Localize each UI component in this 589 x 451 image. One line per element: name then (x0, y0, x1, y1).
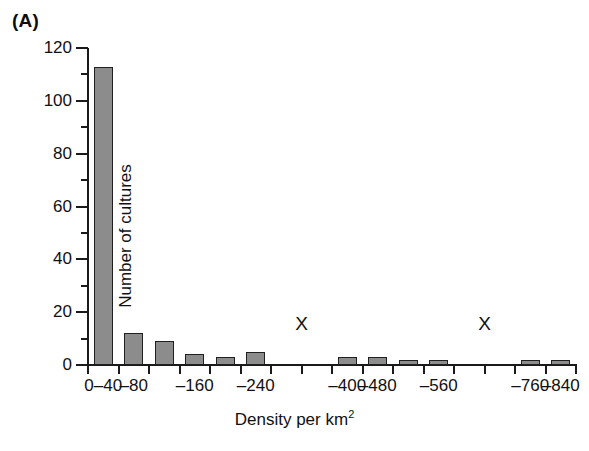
x-axis-tick-label: 0–40 (84, 376, 122, 396)
y-axis-tick-label: 0 (12, 355, 72, 375)
y-axis-tick-label: 40 (12, 249, 72, 269)
bar (124, 333, 143, 365)
bar (246, 352, 265, 365)
bar (185, 354, 204, 365)
y-axis-tick-label: 20 (12, 302, 72, 322)
x-axis-tick (148, 365, 150, 374)
x-axis-tick-label: –480 (359, 376, 397, 396)
x-axis-tick (331, 365, 333, 374)
bar (399, 360, 418, 365)
x-axis-tick-label: –560 (420, 376, 458, 396)
x-axis-tick-label: –160 (176, 376, 214, 396)
bar (429, 360, 448, 365)
x-axis-tick (575, 365, 577, 374)
x-axis-tick (423, 365, 425, 374)
x-axis-tick-label: –240 (237, 376, 275, 396)
x-axis-tick (270, 365, 272, 374)
y-axis-tick-major (76, 206, 88, 208)
bar (216, 357, 235, 365)
figure-panel-a: (A) 020406080100120 Number of cultures X… (0, 0, 589, 451)
bar (551, 360, 570, 365)
y-axis-tick-minor (81, 285, 88, 287)
y-axis-tick-major (76, 311, 88, 313)
y-axis-tick-minor (81, 73, 88, 75)
y-axis-tick-label: 100 (12, 91, 72, 111)
x-axis-title-superscript: 2 (348, 408, 354, 420)
y-axis-tick-label: 80 (12, 144, 72, 164)
y-axis-tick-minor (81, 126, 88, 128)
y-axis-tick-minor (81, 179, 88, 181)
y-axis-tick-major (76, 47, 88, 49)
y-axis-tick-minor (81, 338, 88, 340)
x-axis-tick-label: –80 (120, 376, 148, 396)
bar (155, 341, 174, 365)
x-axis-tick (514, 365, 516, 374)
x-axis-tick (87, 365, 89, 374)
x-axis-title: Density per km2 (0, 408, 589, 430)
bar (521, 360, 540, 365)
y-axis-tick-major (76, 153, 88, 155)
y-axis-tick-major (76, 258, 88, 260)
x-axis-tick (484, 365, 486, 374)
x-axis-tick (118, 365, 120, 374)
y-axis-title: Number of cultures (116, 126, 136, 346)
x-axis-tick (362, 365, 364, 374)
x-axis-tick (301, 365, 303, 374)
x-axis-title-text: Density per km (235, 410, 348, 429)
x-axis-tick-label: –840 (542, 376, 580, 396)
y-axis-tick-minor (81, 232, 88, 234)
plot-area: Number of cultures XX (88, 48, 576, 365)
x-axis-tick (179, 365, 181, 374)
bar (94, 67, 113, 366)
bar (368, 357, 387, 365)
bar (338, 357, 357, 365)
y-axis-tick-major (76, 100, 88, 102)
x-axis-tick (240, 365, 242, 374)
x-axis-tick (392, 365, 394, 374)
x-axis-tick (545, 365, 547, 374)
y-axis-tick-label: 120 (12, 38, 72, 58)
gap-marker-x: X (478, 313, 491, 335)
x-axis-tick (453, 365, 455, 374)
x-axis-tick (209, 365, 211, 374)
x-axis-tick-labels: 0–40–80–160–240–400–480–560–760–840 (0, 376, 589, 402)
gap-marker-x: X (295, 313, 308, 335)
y-axis-tick-label: 60 (12, 197, 72, 217)
